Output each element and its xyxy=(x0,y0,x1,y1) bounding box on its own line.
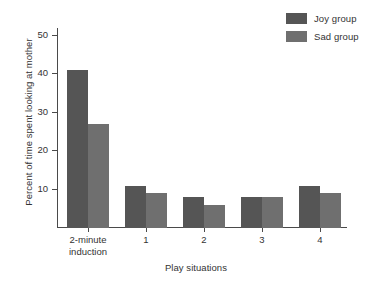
y-tick-30: 30 xyxy=(52,112,57,113)
y-tick-10: 10 xyxy=(52,189,57,190)
bar-joy-group-group-1 xyxy=(67,70,88,228)
y-tick-label-50: 50 xyxy=(37,28,48,41)
legend-label-joy-group: Joy group xyxy=(314,14,357,24)
y-tick-label-40: 40 xyxy=(37,66,48,79)
x-tick-2 xyxy=(146,228,147,232)
y-tick-50: 50 xyxy=(52,35,57,36)
bar-sad-group-group-2 xyxy=(146,193,167,228)
bar-joy-group-group-4 xyxy=(241,197,262,228)
x-tick-1 xyxy=(88,228,89,232)
x-category-label-5: 4 xyxy=(275,234,365,246)
x-tick-3 xyxy=(204,228,205,232)
bar-sad-group-group-1 xyxy=(88,124,109,228)
bar-chart-figure: Joy group Sad group Percent of time spen… xyxy=(0,0,392,285)
y-tick-label-10: 10 xyxy=(37,182,48,195)
y-tick-label-20: 20 xyxy=(37,143,48,156)
plot-area: 1020304050 xyxy=(57,28,347,228)
legend-swatch-joy-group xyxy=(286,13,307,24)
y-axis-line xyxy=(57,28,58,228)
bar-joy-group-group-2 xyxy=(125,186,146,228)
bar-sad-group-group-3 xyxy=(204,205,225,228)
y-axis-title: Percent of time spent looking at mother xyxy=(22,22,36,222)
bar-joy-group-group-3 xyxy=(183,197,204,228)
x-tick-4 xyxy=(262,228,263,232)
bar-sad-group-group-4 xyxy=(262,197,283,228)
legend-item-joy-group: Joy group xyxy=(286,13,359,24)
bar-joy-group-group-5 xyxy=(299,186,320,228)
y-tick-label-30: 30 xyxy=(37,105,48,118)
bar-sad-group-group-5 xyxy=(320,193,341,228)
y-tick-20: 20 xyxy=(52,150,57,151)
x-tick-5 xyxy=(320,228,321,232)
y-tick-40: 40 xyxy=(52,73,57,74)
x-axis-title: Play situations xyxy=(0,262,392,273)
